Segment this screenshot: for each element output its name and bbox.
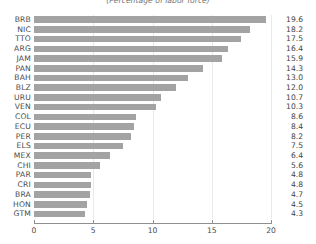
category-label: ARG <box>0 44 31 54</box>
bar <box>34 16 266 23</box>
x-tick <box>212 220 213 224</box>
bar <box>34 94 161 101</box>
value-label: 4.3 <box>277 209 303 219</box>
category-label: JAM <box>0 54 31 64</box>
category-label: PER <box>0 132 31 142</box>
bar <box>34 104 156 111</box>
x-tick-label: 5 <box>83 226 103 235</box>
category-label: VEN <box>0 102 31 112</box>
value-label: 10.3 <box>277 102 303 112</box>
category-label: BRB <box>0 15 31 25</box>
category-label: CRI <box>0 180 31 190</box>
bar <box>34 123 134 130</box>
value-label: 15.9 <box>277 54 303 64</box>
bar <box>34 201 87 208</box>
x-tick-label: 10 <box>143 226 163 235</box>
bar <box>34 133 131 140</box>
category-label: GTM <box>0 209 31 219</box>
bar-series <box>34 15 271 219</box>
bar <box>34 162 100 169</box>
bar-row <box>34 93 271 103</box>
value-label: 8.2 <box>277 132 303 142</box>
bar <box>34 36 241 43</box>
value-label: 5.6 <box>277 161 303 171</box>
value-label: 10.7 <box>277 93 303 103</box>
value-label: 13.0 <box>277 73 303 83</box>
bar <box>34 65 203 72</box>
bar-row <box>34 170 271 180</box>
value-label: 4.7 <box>277 190 303 200</box>
bar <box>34 191 90 198</box>
category-label: MEX <box>0 151 31 161</box>
value-label: 17.5 <box>277 34 303 44</box>
plot-area <box>34 15 271 219</box>
value-label: 8.6 <box>277 112 303 122</box>
bar <box>34 55 222 62</box>
bar-row <box>34 112 271 122</box>
x-tick-label: 0 <box>24 226 44 235</box>
category-label: TTO <box>0 34 31 44</box>
value-label: 18.2 <box>277 25 303 35</box>
value-label: 4.5 <box>277 200 303 210</box>
bar-row <box>34 73 271 83</box>
bar <box>34 182 91 189</box>
bar-row <box>34 83 271 93</box>
category-label: BLZ <box>0 83 31 93</box>
x-tick <box>271 220 272 224</box>
category-label: PAR <box>0 170 31 180</box>
category-label: BAH <box>0 73 31 83</box>
category-label: PAN <box>0 64 31 74</box>
bar-row <box>34 122 271 132</box>
value-label: 6.4 <box>277 151 303 161</box>
bar <box>34 26 250 33</box>
bar <box>34 152 110 159</box>
category-label: BRA <box>0 190 31 200</box>
category-label: NIC <box>0 25 31 35</box>
category-label: HON <box>0 200 31 210</box>
value-label: 8.4 <box>277 122 303 132</box>
bar-chart: (Percentage of labor force) BRBNICTTOARG… <box>0 0 316 244</box>
value-labels: 19.618.217.516.415.914.313.012.010.710.3… <box>277 15 313 219</box>
bar-row <box>34 209 271 219</box>
gridline <box>271 15 272 219</box>
x-tick-label: 15 <box>202 226 222 235</box>
category-label: URU <box>0 93 31 103</box>
bar <box>34 46 228 53</box>
bar <box>34 211 85 218</box>
bar-row <box>34 132 271 142</box>
x-tick <box>93 220 94 224</box>
bar-row <box>34 54 271 64</box>
category-label: CHI <box>0 161 31 171</box>
bar <box>34 75 188 82</box>
bar-row <box>34 200 271 210</box>
value-label: 14.3 <box>277 64 303 74</box>
bar-row <box>34 34 271 44</box>
bar <box>34 84 176 91</box>
bar-row <box>34 64 271 74</box>
value-label: 12.0 <box>277 83 303 93</box>
bar-row <box>34 180 271 190</box>
x-tick <box>153 220 154 224</box>
bar <box>34 114 136 121</box>
bar <box>34 143 123 150</box>
chart-subtitle: (Percentage of labor force) <box>0 0 316 5</box>
value-label: 16.4 <box>277 44 303 54</box>
category-label: ELS <box>0 141 31 151</box>
category-label: ECU <box>0 122 31 132</box>
value-label: 19.6 <box>277 15 303 25</box>
x-tick <box>34 220 35 224</box>
bar-row <box>34 15 271 25</box>
category-label: COL <box>0 112 31 122</box>
bar-row <box>34 25 271 35</box>
bar-row <box>34 161 271 171</box>
x-tick-label: 20 <box>261 226 281 235</box>
bar <box>34 172 91 179</box>
bar-row <box>34 102 271 112</box>
bar-row <box>34 141 271 151</box>
category-axis-labels: BRBNICTTOARGJAMPANBAHBLZURUVENCOLECUPERE… <box>0 15 31 219</box>
value-label: 7.5 <box>277 141 303 151</box>
bar-row <box>34 190 271 200</box>
value-label: 4.8 <box>277 180 303 190</box>
bar-row <box>34 151 271 161</box>
value-label: 4.8 <box>277 170 303 180</box>
